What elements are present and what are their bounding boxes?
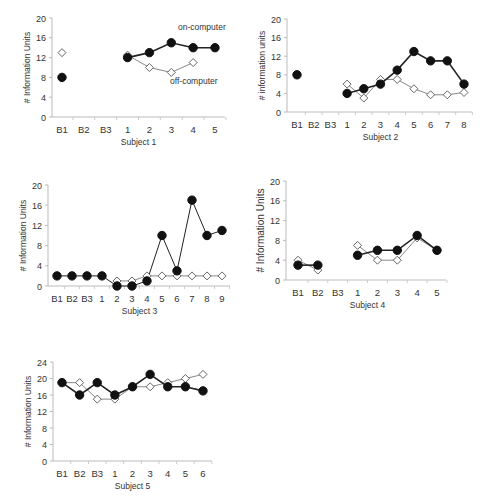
x-tick-label: 2 — [375, 287, 380, 298]
y-tick-label: 8 — [276, 70, 281, 80]
data-point-on-computer — [113, 282, 121, 290]
x-tick-label: 6 — [174, 293, 179, 304]
y-tick-label: 20 — [270, 177, 280, 187]
x-tick-label: 3 — [129, 293, 134, 304]
data-point-off-computer — [181, 375, 189, 383]
x-tick-label: 2 — [361, 119, 366, 130]
data-point-on-computer — [145, 48, 153, 56]
data-point-off-computer — [443, 91, 451, 99]
x-axis-title: Subject 2 — [363, 132, 399, 142]
data-point-off-computer — [145, 64, 153, 72]
x-tick-label: 4 — [190, 124, 195, 135]
data-point-on-computer — [189, 44, 197, 52]
data-point-on-computer — [123, 53, 131, 61]
y-tick-label: 0 — [276, 108, 281, 118]
y-tick-label: 16 — [36, 33, 46, 43]
y-tick-label: 20 — [271, 15, 281, 25]
x-tick-label: 1 — [99, 293, 104, 304]
y-tick-label: 4 — [41, 93, 46, 103]
data-point-on-computer — [360, 85, 368, 93]
data-point-on-computer — [83, 272, 91, 280]
x-tick-label: 1 — [344, 119, 349, 130]
data-point-on-computer — [433, 246, 441, 254]
x-tick-label: B2 — [308, 119, 320, 130]
x-tick-label: 3 — [395, 287, 400, 298]
x-tick-label: B2 — [66, 293, 78, 304]
y-tick-label: 12 — [271, 52, 281, 62]
data-point-on-computer — [314, 261, 322, 269]
x-tick-label: B3 — [81, 293, 93, 304]
data-point-on-computer — [181, 383, 189, 391]
data-point-off-computer — [146, 383, 154, 391]
data-point-on-computer — [199, 387, 207, 395]
x-tick-label: 3 — [378, 119, 383, 130]
data-point-off-computer — [158, 272, 166, 280]
x-tick-label: B3 — [100, 124, 112, 135]
data-point-on-computer — [353, 251, 361, 259]
x-tick-label: B1 — [51, 293, 63, 304]
x-tick-label: 5 — [434, 287, 439, 298]
data-point-off-computer — [199, 370, 207, 378]
y-axis-title: # Information Units — [22, 32, 32, 103]
x-tick-label: 7 — [189, 293, 194, 304]
y-axis-title: # information units — [257, 31, 267, 100]
data-point-on-computer — [158, 231, 166, 239]
data-point-off-computer — [373, 256, 381, 264]
y-tick-label: 20 — [36, 14, 46, 24]
x-tick-label: 3 — [169, 124, 174, 135]
data-point-on-computer — [68, 272, 76, 280]
data-point-off-computer — [188, 272, 196, 280]
x-tick-label: 8 — [204, 293, 209, 304]
y-tick-label: 8 — [42, 424, 47, 434]
x-tick-label: 6 — [200, 468, 205, 479]
y-tick-label: 8 — [41, 73, 46, 83]
y-tick-label: 20 — [37, 374, 47, 384]
data-point-on-computer — [426, 57, 434, 65]
data-point-on-computer — [443, 57, 451, 65]
y-tick-label: 16 — [270, 196, 280, 206]
data-point-on-computer — [164, 383, 172, 391]
figure-canvas: 048121620B1B2B312345Subject 1# Informati… — [0, 0, 486, 501]
x-tick-label: B1 — [56, 124, 68, 135]
data-point-on-computer — [393, 246, 401, 254]
x-tick-label: 3 — [147, 468, 152, 479]
y-tick-label: 4 — [37, 261, 42, 271]
data-point-off-computer — [58, 49, 66, 57]
x-tick-label: 4 — [144, 293, 149, 304]
y-tick-label: 0 — [41, 113, 46, 123]
x-tick-label: B2 — [74, 468, 86, 479]
data-point-off-computer — [354, 241, 362, 249]
chart-subject-3: 048121620B1B2B3123456789Subject 3# Infor… — [18, 181, 230, 317]
x-tick-label: 8 — [461, 119, 466, 130]
x-tick-label: 1 — [125, 124, 130, 135]
data-point-on-computer — [58, 378, 66, 386]
data-point-on-computer — [293, 71, 301, 79]
y-tick-label: 4 — [42, 440, 47, 450]
data-point-on-computer — [53, 272, 61, 280]
x-tick-label: 2 — [147, 124, 152, 135]
y-tick-label: 8 — [37, 241, 42, 251]
chart-subject-5: 04812162024B1B2B3123456Subject 5# Inform… — [23, 358, 212, 492]
y-axis-title: # Information Units — [18, 200, 28, 271]
data-point-on-computer — [211, 44, 219, 52]
data-point-off-computer — [427, 91, 435, 99]
data-point-off-computer — [393, 75, 401, 83]
y-tick-label: 12 — [37, 407, 47, 417]
y-tick-label: 12 — [270, 216, 280, 226]
data-point-on-computer — [410, 47, 418, 55]
data-point-on-computer — [146, 370, 154, 378]
x-tick-label: B1 — [291, 119, 303, 130]
data-point-on-computer — [75, 391, 83, 399]
x-tick-label: 5 — [159, 293, 164, 304]
x-tick-label: B1 — [56, 468, 68, 479]
y-tick-label: 20 — [32, 181, 42, 191]
annotation-off-computer: off-computer — [170, 76, 218, 86]
y-tick-label: 0 — [42, 457, 47, 467]
y-tick-label: 0 — [275, 276, 280, 286]
data-point-on-computer — [93, 378, 101, 386]
data-point-on-computer — [167, 39, 175, 47]
y-tick-label: 8 — [275, 236, 280, 246]
x-axis-title: Subject 1 — [121, 137, 157, 147]
y-tick-label: 4 — [275, 256, 280, 266]
series-line-on-computer — [57, 200, 222, 286]
